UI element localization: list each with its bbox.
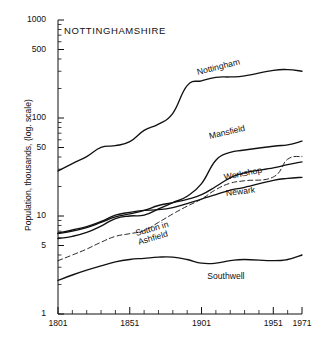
y-axis-tick-label: 50 — [12, 142, 46, 152]
x-axis-tick-label: 1971 — [285, 318, 319, 328]
series-line-sutton-in-ashfield — [58, 156, 302, 260]
x-axis-tick-label: 1901 — [185, 318, 219, 328]
plot-area — [0, 0, 326, 351]
x-axis-tick-label: 1851 — [113, 318, 147, 328]
y-axis-tick-label: 1 — [12, 308, 46, 318]
population-line-chart: NOTTINGHAMSHIRE Population, thousands, (… — [0, 0, 326, 351]
y-axis-title: Population, thousands, (log. scale) — [23, 85, 33, 245]
y-axis-tick-label: 10 — [12, 210, 46, 220]
series-line-southwell — [58, 255, 302, 280]
axis-spine — [58, 20, 302, 314]
chart-title: NOTTINGHAMSHIRE — [64, 25, 166, 36]
y-axis-tick-label: 1000 — [12, 14, 46, 24]
y-axis-tick-label: 5 — [12, 240, 46, 250]
y-axis-tick-label: 100 — [12, 112, 46, 122]
series-label-southwell: Southwell — [207, 271, 244, 281]
series-line-nottingham — [58, 69, 302, 171]
x-axis-tick-label: 1801 — [41, 318, 75, 328]
y-axis-tick-label: 500 — [12, 44, 46, 54]
